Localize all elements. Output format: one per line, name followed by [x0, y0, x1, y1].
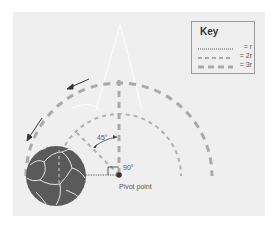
- dotted-line-icon: [198, 44, 234, 53]
- dashed-line-icon: [198, 53, 234, 62]
- key-title: Key: [200, 26, 218, 37]
- thick-dashed-line-icon: [198, 62, 234, 71]
- ball: [26, 146, 86, 206]
- angle-90-label: 90°: [123, 164, 134, 171]
- key-legend: Key = r = 2r = 3r: [191, 21, 255, 74]
- key-label-3r: = 3r: [240, 61, 252, 68]
- pivot-label: Pivot point: [119, 183, 152, 190]
- angle-45-label: 45°: [97, 134, 108, 141]
- faint-guide-lines: [72, 25, 142, 110]
- key-label-2r: = 2r: [240, 52, 252, 59]
- key-item-3r: = 3r: [198, 62, 252, 71]
- key-label-r: = r: [244, 43, 252, 50]
- pivot-point: [116, 172, 122, 178]
